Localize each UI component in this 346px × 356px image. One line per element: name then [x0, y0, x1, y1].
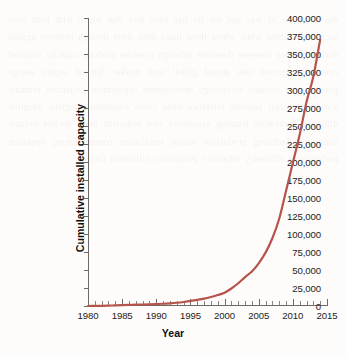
x-tick-label: 2005	[248, 310, 269, 321]
x-tick-label: 2015	[317, 310, 338, 321]
x-tick-label: 1990	[146, 310, 167, 321]
series-line-chart	[88, 18, 327, 306]
x-axis-title: Year	[0, 327, 346, 339]
x-tick-label: 1995	[180, 310, 201, 321]
x-tick-label: 1985	[112, 310, 133, 321]
chart-figure: the it the on its was and not for has be…	[0, 0, 346, 356]
x-tick-label: 2000	[214, 310, 235, 321]
plot-area: 025,00050,00075,000100,000125,000150,000…	[88, 18, 327, 305]
x-tick-mark-major	[327, 299, 328, 305]
x-tick-label: 1980	[78, 310, 99, 321]
series-path-cumulative-installed-capacity	[88, 40, 320, 306]
x-tick-label: 2010	[282, 310, 303, 321]
